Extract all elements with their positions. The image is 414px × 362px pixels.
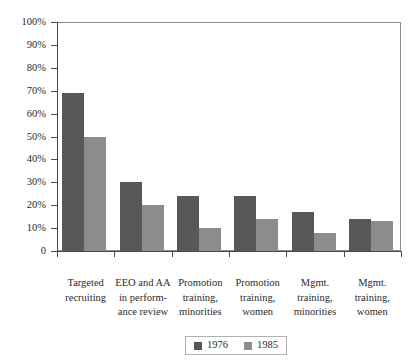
x-axis-category-label: Targetedrecruiting [53,276,118,305]
y-axis-tick-label: 100% [22,17,47,28]
x-axis-category-label-line: recruiting [53,291,118,306]
bar-1976-group-4 [292,212,314,251]
y-axis-tick-label: 70% [27,86,46,97]
x-axis-category-label-line: ance review [110,305,175,320]
bar-1985-group-5 [371,221,393,251]
x-axis-tick [229,251,230,257]
y-axis-tick-label: 40% [27,154,46,165]
x-axis-category-label: Mgmt.training,women [340,276,405,320]
x-axis-category-label: Promotiontraining,minorities [168,276,233,320]
bar-1985-group-1 [142,205,164,251]
y-axis-tick-label: 80% [27,63,46,74]
x-axis-category-label-line: training, [225,291,290,306]
legend-label: 1985 [257,340,278,351]
legend-swatch-icon [244,342,252,350]
legend-item-1976: 1976 [194,340,228,351]
bar-1976-group-3 [234,196,256,251]
x-axis-category-label-line: training, [168,291,233,306]
bar-1976-group-0 [62,93,84,251]
y-axis-tick-label: 60% [27,109,46,120]
x-axis-tick [401,251,402,257]
bar-1985-group-4 [314,233,336,251]
legend-swatch-icon [194,342,202,350]
y-axis-tick-label: 20% [27,200,46,211]
x-axis-category-label-line: Mgmt. [340,276,405,291]
x-axis-category-label-line: Promotion [225,276,290,291]
x-axis-category-label-line: EEO and AA [110,276,175,291]
y-axis-tick-label: 30% [27,177,46,188]
x-axis-tick [172,251,173,257]
legend-label: 1976 [207,340,228,351]
x-axis-category-label: EEO and AAin perform-ance review [110,276,175,320]
x-axis-tick [286,251,287,257]
x-axis-category-label-line: minorities [168,305,233,320]
x-axis-category-label-line: Promotion [168,276,233,291]
y-axis-tick-label: 50% [27,132,46,143]
x-axis-category-label-line: Mgmt. [282,276,347,291]
y-axis-tick-label: 90% [27,40,46,51]
x-axis-category-label: Promotiontraining,women [225,276,290,320]
bars-layer [57,22,401,251]
bar-1976-group-1 [120,182,142,251]
x-axis-tick [114,251,115,257]
bar-chart-figure: 100%90%80%70%60%50%40%30%20%10%0 Targete… [0,0,414,362]
bar-1976-group-5 [349,219,371,251]
bar-1976-group-2 [177,196,199,251]
x-axis-category-label-line: Targeted [53,276,118,291]
x-axis-category-label-line: training, [340,291,405,306]
bar-1985-group-0 [84,137,106,252]
y-axis-tick-label: 10% [27,223,46,234]
legend-item-1985: 1985 [244,340,278,351]
x-axis-category-label-line: training, [282,291,347,306]
x-axis-category-label-line: in perform- [110,291,175,306]
bar-1985-group-2 [199,228,221,251]
y-axis-tick-label: 0 [41,246,46,257]
x-axis-category-label-line: minorities [282,305,347,320]
x-axis-category-label-line: women [340,305,405,320]
x-axis-category-label-line: women [225,305,290,320]
x-axis-category-label: Mgmt.training,minorities [282,276,347,320]
x-axis-tick [57,251,58,257]
chart-legend: 19761985 [185,336,287,355]
bar-1985-group-3 [256,219,278,251]
x-axis-tick [344,251,345,257]
